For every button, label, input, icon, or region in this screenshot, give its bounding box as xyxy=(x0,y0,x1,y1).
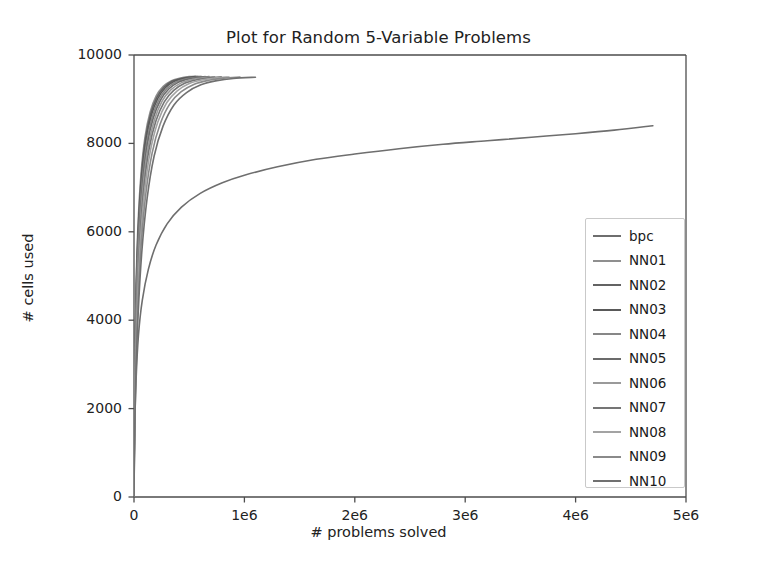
legend[interactable]: bpcNN01NN02NN03NN04NN05NN06NN07NN08NN09N… xyxy=(585,218,685,488)
legend-item-label: NN09 xyxy=(629,450,666,464)
legend-line-icon xyxy=(593,358,621,360)
legend-item-label: NN06 xyxy=(629,377,666,391)
legend-item-label: NN03 xyxy=(629,303,666,317)
x-tick-label: 5e6 xyxy=(656,507,716,523)
legend-item-label: NN05 xyxy=(629,352,666,366)
figure-canvas: Plot for Random 5-Variable Problems # ce… xyxy=(0,0,757,569)
y-tick-label: 8000 xyxy=(52,134,122,150)
x-tick-label: 1e6 xyxy=(214,507,274,523)
legend-item-nn03[interactable]: NN03 xyxy=(586,298,686,323)
legend-line-icon xyxy=(593,431,621,433)
legend-item-label: NN01 xyxy=(629,254,666,268)
legend-item-nn01[interactable]: NN01 xyxy=(586,249,686,274)
legend-item-bpc[interactable]: bpc xyxy=(586,224,686,249)
x-tick-label: 4e6 xyxy=(546,507,606,523)
legend-line-icon xyxy=(593,456,621,458)
legend-line-icon xyxy=(593,235,621,237)
legend-item-nn05[interactable]: NN05 xyxy=(586,347,686,372)
y-tick-label: 0 xyxy=(52,488,122,504)
legend-line-icon xyxy=(593,284,621,286)
x-axis-label: # problems solved xyxy=(0,524,757,540)
y-tick-label: 6000 xyxy=(52,223,122,239)
x-tick-label: 3e6 xyxy=(435,507,495,523)
x-tick-label: 2e6 xyxy=(325,507,385,523)
legend-line-icon xyxy=(593,382,621,384)
legend-item-label: NN10 xyxy=(629,475,666,489)
legend-item-label: NN04 xyxy=(629,328,666,342)
legend-item-label: NN08 xyxy=(629,426,666,440)
y-tick-label: 2000 xyxy=(52,400,122,416)
legend-line-icon xyxy=(593,480,621,482)
legend-item-label: NN07 xyxy=(629,401,666,415)
x-tick-label: 0 xyxy=(104,507,164,523)
legend-line-icon xyxy=(593,260,621,262)
legend-item-nn10[interactable]: NN10 xyxy=(586,469,686,494)
legend-item-nn09[interactable]: NN09 xyxy=(586,445,686,470)
legend-line-icon xyxy=(593,333,621,335)
legend-item-nn07[interactable]: NN07 xyxy=(586,396,686,421)
legend-item-nn06[interactable]: NN06 xyxy=(586,371,686,396)
legend-item-label: bpc xyxy=(629,230,654,244)
legend-item-nn02[interactable]: NN02 xyxy=(586,273,686,298)
legend-item-label: NN02 xyxy=(629,279,666,293)
y-tick-label: 4000 xyxy=(52,311,122,327)
legend-item-nn08[interactable]: NN08 xyxy=(586,420,686,445)
y-tick-label: 10000 xyxy=(52,46,122,62)
legend-line-icon xyxy=(593,407,621,409)
legend-line-icon xyxy=(593,309,621,311)
y-axis-label: # cells used xyxy=(20,188,36,368)
legend-item-nn04[interactable]: NN04 xyxy=(586,322,686,347)
